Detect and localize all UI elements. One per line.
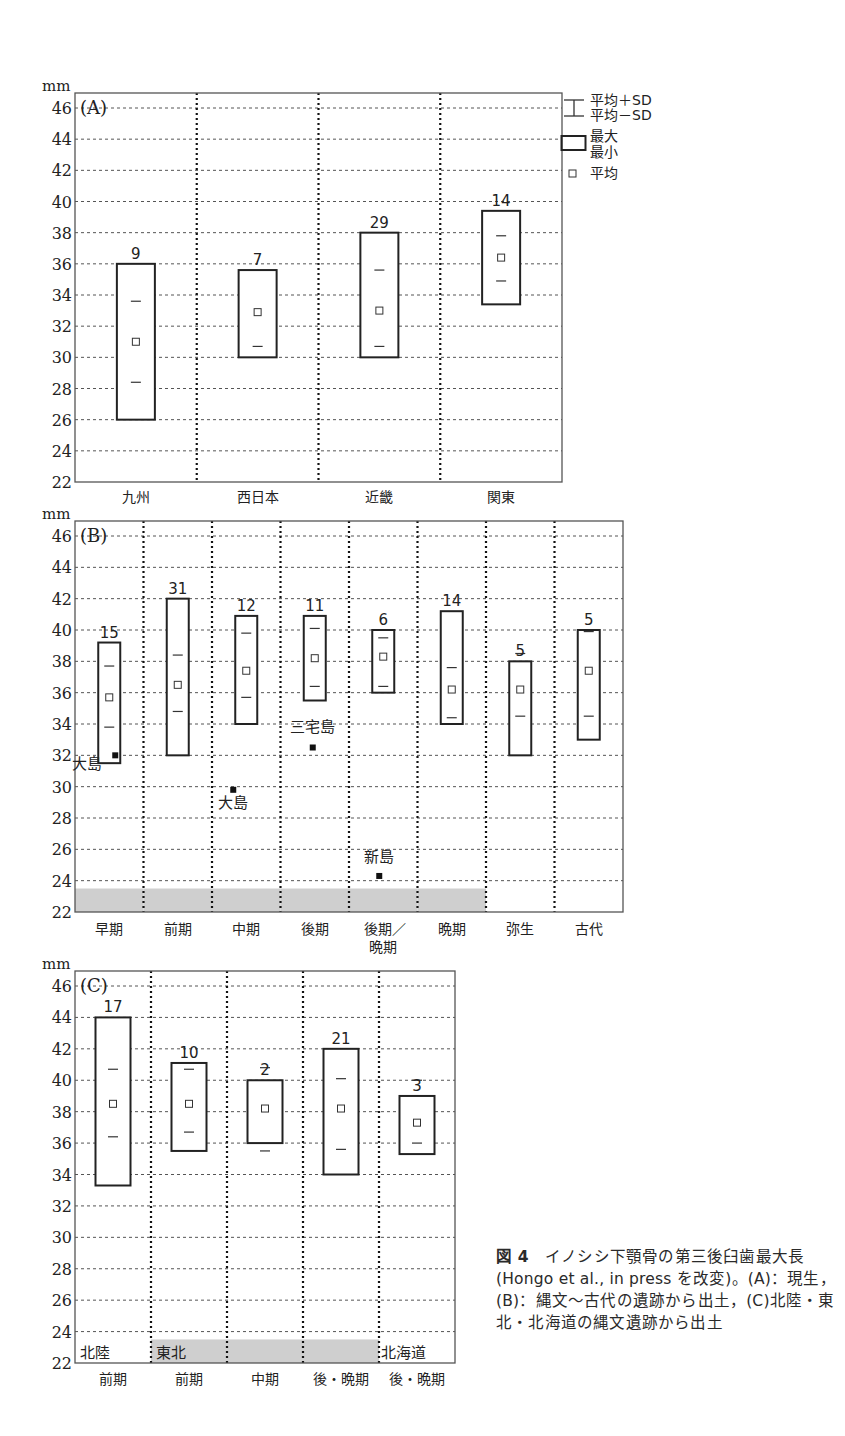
y-tick-label: 28 [52,380,72,399]
mean-marker [311,655,318,662]
min-max-box [360,233,398,358]
range-box: 7 [239,251,277,357]
y-tick-label: 24 [52,1323,72,1342]
x-category-label: 後期／ [364,921,406,937]
shaded-region [281,889,350,913]
x-category-label: 後期 [301,921,329,937]
outlier-label: 新島 [364,848,394,866]
legend-mean-label: 平均 [590,165,618,181]
outlier-point [310,745,316,751]
outlier-label: 大島 [72,755,102,773]
region-label: 北陸 [80,1344,110,1362]
mean-marker [110,1100,117,1107]
sample-count: 12 [237,597,256,615]
mean-marker [132,338,139,345]
legend-min-label: 最小 [590,144,618,160]
sample-count: 9 [131,245,141,263]
mean-square-icon [564,166,584,182]
y-tick-label: 22 [52,1354,72,1373]
x-category-label: 晩期 [369,939,397,955]
mean-marker [448,686,455,693]
y-tick-label: 32 [52,1197,72,1216]
chart-panel-c: 22242628303234363840424446mm(C)17前期10前期2… [42,955,455,1387]
sample-count: 14 [492,192,511,210]
mean-marker [262,1105,269,1112]
range-box: 31 [167,580,189,756]
x-category-label: 後・晩期 [389,1371,445,1387]
region-label: 東北 [156,1344,186,1362]
y-tick-label: 38 [52,224,72,243]
chart-panel-b: 22242628303234363840424446mm(B)15早期31前期1… [42,505,623,955]
sample-count: 5 [515,642,525,660]
sample-count: 5 [584,611,594,629]
legend-sd-minus-label: 平均－SD [590,107,652,123]
mean-marker [376,307,383,314]
x-category-label: 古代 [575,921,603,937]
mean-marker [186,1100,193,1107]
min-max-box [98,643,120,764]
shaded-region [303,1339,379,1363]
x-category-label: 前期 [164,921,192,937]
y-tick-label: 24 [52,872,72,891]
y-tick-label: 36 [52,1134,72,1153]
y-unit-label: mm [42,505,70,523]
y-tick-label: 44 [52,1008,72,1027]
range-box: 6 [372,611,394,693]
y-tick-label: 22 [52,473,72,492]
sample-count: 2 [260,1061,270,1079]
y-tick-label: 26 [52,840,72,859]
panel-label: (A) [80,97,107,118]
sample-count: 21 [331,1030,350,1048]
mean-marker [106,694,113,701]
sample-count: 14 [442,592,461,610]
outlier-point [230,787,236,793]
sample-count: 3 [412,1077,422,1095]
outlier-point [376,873,382,879]
y-tick-label: 28 [52,1260,72,1279]
y-tick-label: 34 [52,715,72,734]
y-tick-label: 24 [52,442,72,461]
outlier-label: 大島 [218,794,248,812]
y-tick-label: 44 [52,558,72,577]
legend-range: 最大 最小 [562,126,702,164]
legend-sd: 平均＋SD 平均－SD [562,92,702,126]
region-label: 北海道 [381,1344,426,1362]
plot-frame [75,971,455,1363]
sample-count: 29 [370,214,389,232]
x-category-label: 弥生 [506,921,534,937]
range-box: 14 [441,592,463,724]
range-box-icon [560,134,588,156]
y-tick-label: 26 [52,411,72,430]
sample-count: 7 [253,251,263,269]
x-category-label: 中期 [251,1371,279,1387]
sample-count: 31 [168,580,187,598]
shaded-region [349,889,418,913]
x-category-label: 西日本 [237,489,279,505]
legend-mean: 平均 [562,164,702,184]
y-tick-label: 34 [52,286,72,305]
y-tick-label: 30 [52,1228,72,1247]
legend: 平均＋SD 平均－SD 最大 最小 平均 [562,92,702,184]
range-box: 5 [578,611,600,740]
x-category-label: 中期 [232,921,260,937]
range-box: 9 [117,245,155,420]
mean-marker [585,667,592,674]
y-tick-label: 46 [52,527,72,546]
x-category-label: 関東 [487,489,515,505]
x-category-label: 早期 [95,921,123,937]
range-box: 14 [482,192,520,305]
range-box: 10 [172,1044,207,1151]
range-box: 21 [324,1030,359,1175]
y-tick-label: 46 [52,977,72,996]
y-unit-label: mm [42,955,70,973]
sample-count: 11 [305,597,324,615]
sample-count: 15 [100,624,119,642]
y-tick-label: 36 [52,255,72,274]
y-tick-label: 42 [52,590,72,609]
mean-marker [338,1105,345,1112]
legend-sd-plus-label: 平均＋SD [590,92,652,108]
y-tick-label: 36 [52,684,72,703]
y-tick-label: 32 [52,317,72,336]
y-tick-label: 46 [52,99,72,118]
sample-count: 6 [378,611,388,629]
